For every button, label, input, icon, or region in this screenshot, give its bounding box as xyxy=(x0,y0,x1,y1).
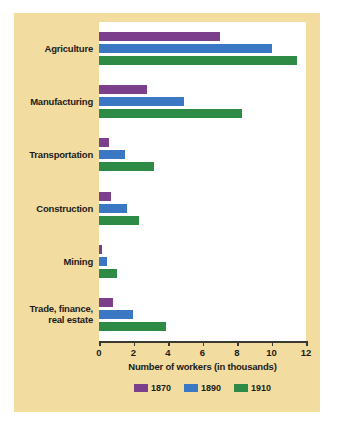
x-axis-tick-label: 4 xyxy=(165,347,170,358)
x-axis-tick xyxy=(272,341,274,346)
bar-group: Transportation xyxy=(14,128,306,181)
legend-label: 1870 xyxy=(151,383,171,393)
legend-swatch-icon xyxy=(184,384,198,392)
bars-container xyxy=(99,182,306,235)
bar-group: Manufacturing xyxy=(14,75,306,128)
bar-group: Construction xyxy=(14,182,306,235)
x-axis-tick-label: 12 xyxy=(301,347,312,358)
x-axis-tick-label: 2 xyxy=(131,347,136,358)
x-axis-tick xyxy=(99,341,101,346)
bars-container xyxy=(99,22,306,75)
x-axis-tick-label: 6 xyxy=(200,347,205,358)
legend-swatch-icon xyxy=(234,384,248,392)
bar-groups: AgricultureManufacturingTransportationCo… xyxy=(14,22,306,341)
x-axis-tick xyxy=(237,341,239,346)
bar-group: Mining xyxy=(14,235,306,288)
bar-1890 xyxy=(99,97,184,106)
bar-1910 xyxy=(99,216,139,225)
bar-1870 xyxy=(99,138,109,147)
bars-container xyxy=(99,128,306,181)
legend-swatch-icon xyxy=(134,384,148,392)
bar-1910 xyxy=(99,269,117,278)
bar-1890 xyxy=(99,204,127,213)
legend-label: 1890 xyxy=(201,383,221,393)
category-label: Transportation xyxy=(14,149,99,160)
x-axis-tick xyxy=(168,341,170,346)
bar-1870 xyxy=(99,192,111,201)
category-label: Trade, finance,real estate xyxy=(14,303,99,325)
x-axis-tick-label: 8 xyxy=(234,347,239,358)
chart-figure: AgricultureManufacturingTransportationCo… xyxy=(0,0,337,422)
bar-1890 xyxy=(99,44,272,53)
bar-1890 xyxy=(99,150,125,159)
x-axis-tick xyxy=(306,341,308,346)
bar-1910 xyxy=(99,56,297,65)
bar-group: Trade, finance,real estate xyxy=(14,288,306,341)
bar-group: Agriculture xyxy=(14,22,306,75)
bars-container xyxy=(99,75,306,128)
category-label: Mining xyxy=(14,256,99,267)
legend-item: 1890 xyxy=(184,383,221,393)
x-axis-tick xyxy=(134,341,136,346)
bar-1890 xyxy=(99,257,107,266)
category-label: Agriculture xyxy=(14,43,99,54)
category-label: Construction xyxy=(14,203,99,214)
bars-container xyxy=(99,235,306,288)
legend-item: 1870 xyxy=(134,383,171,393)
bar-1870 xyxy=(99,298,113,307)
bar-1910 xyxy=(99,322,166,331)
legend-label: 1910 xyxy=(251,383,271,393)
x-axis-title: Number of workers (in thousands) xyxy=(99,361,306,372)
bars-container xyxy=(99,288,306,341)
x-axis-tick-label: 10 xyxy=(266,347,277,358)
bar-1910 xyxy=(99,109,242,118)
bar-1870 xyxy=(99,245,102,254)
bar-1870 xyxy=(99,32,220,41)
category-label: Manufacturing xyxy=(14,96,99,107)
x-axis-tick xyxy=(203,341,205,346)
bar-1870 xyxy=(99,85,147,94)
chart-legend: 187018901910 xyxy=(99,383,306,393)
legend-item: 1910 xyxy=(234,383,271,393)
x-axis-tick-label: 0 xyxy=(96,347,101,358)
bar-1910 xyxy=(99,162,154,171)
bar-1890 xyxy=(99,310,133,319)
